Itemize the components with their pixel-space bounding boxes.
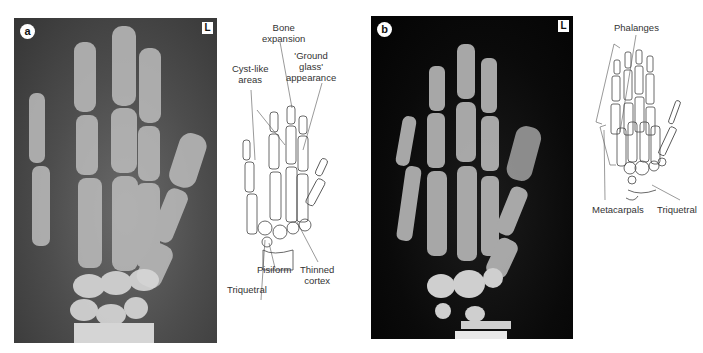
xray-image-a: a L — [14, 18, 217, 343]
label-phalanges: Phalanges — [614, 22, 659, 33]
xray-image-b: b L — [371, 16, 573, 339]
label-bone-expansion: Bone expansion — [262, 22, 305, 44]
side-marker-b: L — [558, 20, 569, 32]
label-thinned-cortex: Thinned cortex — [300, 264, 334, 286]
diagram-b — [580, 0, 703, 353]
label-cyst-like-areas: Cyst-like areas — [232, 63, 268, 85]
label-pisiform: Pisiform — [257, 264, 291, 275]
label-metacarpals: Metacarpals — [592, 204, 644, 215]
label-triquetral-b: Triquetral — [657, 204, 697, 215]
panel-letter-b: b — [377, 22, 392, 37]
hand-bones-b — [371, 16, 573, 339]
label-ground-glass: 'Ground glass' appearance — [286, 50, 336, 83]
label-triquetral-a: Triquetral — [227, 284, 267, 295]
hand-bones-a — [14, 18, 217, 343]
panel-letter-a: a — [20, 24, 35, 39]
hand-line-drawing-b — [580, 0, 703, 353]
side-marker-a: L — [202, 22, 213, 34]
